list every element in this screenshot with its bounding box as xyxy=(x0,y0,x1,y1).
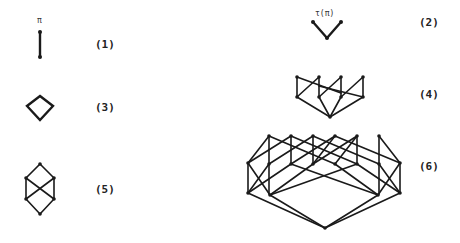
diagram-canvas xyxy=(0,0,460,243)
figure-4-graph xyxy=(295,75,365,119)
figure-1-graph xyxy=(38,30,42,59)
figure-6-label: (6) xyxy=(419,160,439,173)
figure-3-graph xyxy=(27,96,53,120)
figure-2-graph xyxy=(311,20,343,40)
figure-5-graph xyxy=(24,162,56,216)
figure-4-label: (4) xyxy=(419,88,439,101)
figure-1-annotation: π xyxy=(37,16,42,25)
figure-3-label: (3) xyxy=(95,101,115,114)
figure-6-graph xyxy=(246,134,402,230)
figure-2-annotation: τ(π) xyxy=(315,9,334,18)
figure-5-label: (5) xyxy=(95,183,115,196)
figure-2-label: (2) xyxy=(419,16,439,29)
figure-1-label: (1) xyxy=(95,38,115,51)
